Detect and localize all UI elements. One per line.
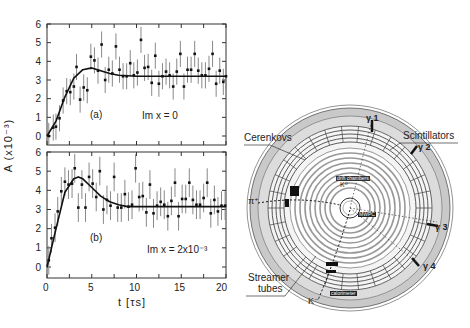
svg-text:3: 3 [35, 75, 41, 86]
svg-text:5: 5 [35, 37, 41, 48]
drift-chambers-label: drift chambers [336, 176, 370, 181]
gamma-4-label: γ 4 [423, 262, 436, 271]
panel-a-annotation: Im x = 0 [142, 111, 178, 121]
svg-text:6: 6 [35, 147, 41, 158]
pi-plus-label: π⁺ [248, 197, 259, 206]
panel-a-plot: 0123456 [35, 19, 227, 146]
svg-text:2: 2 [35, 93, 41, 104]
streamer-label: Streamer [248, 273, 289, 283]
mwpc-label: MWPC [358, 212, 376, 217]
cerenkovs-label: Cerenkovs [244, 133, 292, 143]
chart-area: 0123456 0123456 [0, 0, 470, 328]
svg-text:3: 3 [35, 204, 41, 215]
svg-text:1: 1 [35, 242, 41, 253]
panel-a-label: (a) [90, 110, 102, 120]
svg-text:5: 5 [35, 166, 41, 177]
panel-b-plot: 0123456 [35, 147, 226, 279]
k0-label: K⁰ [340, 181, 348, 188]
calorimeter-label: calorimeter [330, 291, 357, 296]
gamma-3-label: γ 3 [435, 223, 448, 232]
svg-text:4: 4 [35, 56, 41, 67]
y-axis-label: A (x10⁻³) [3, 119, 14, 173]
x-tick-20: 20 [216, 283, 227, 293]
panel-b-label: (b) [90, 233, 102, 243]
x-tick-15: 15 [174, 283, 185, 293]
gamma-2-label: γ 2 [418, 143, 431, 152]
k-minus-label: K⁻ [308, 297, 319, 306]
x-tick-5: 5 [88, 283, 94, 293]
scintillators-label: Scintillators [403, 131, 454, 141]
svg-text:0: 0 [35, 262, 41, 273]
tubes-label: tubes [258, 284, 282, 294]
x-axis-label: t [τs] [118, 297, 146, 308]
svg-text:1: 1 [35, 112, 41, 123]
svg-text:4: 4 [35, 185, 41, 196]
x-tick-10: 10 [129, 283, 140, 293]
svg-text:2: 2 [35, 223, 41, 234]
svg-text:0: 0 [35, 131, 41, 142]
panel-b-annotation: Im x = 2x10⁻³ [147, 245, 207, 255]
svg-text:6: 6 [35, 19, 41, 30]
gamma-1-label: γ 1 [366, 114, 379, 123]
x-tick-0: 0 [43, 283, 49, 293]
